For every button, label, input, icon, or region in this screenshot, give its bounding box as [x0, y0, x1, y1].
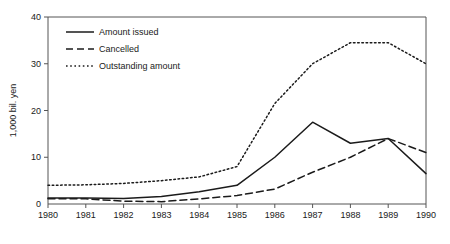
x-tick-label: 1990	[416, 210, 436, 220]
y-tick-label: 10	[31, 152, 41, 162]
series-line-dashed	[48, 139, 426, 202]
y-tick-label: 40	[31, 12, 41, 22]
legend-label: Cancelled	[99, 44, 139, 54]
x-tick-label: 1984	[189, 210, 209, 220]
x-tick-label: 1986	[265, 210, 285, 220]
series-line-solid	[48, 122, 426, 198]
x-tick-label: 1988	[340, 210, 360, 220]
y-tick-label: 30	[31, 59, 41, 69]
legend-label: Outstanding amount	[99, 61, 181, 71]
chart-legend: Amount issuedCancelledOutstanding amount	[66, 27, 181, 71]
y-tick-label: 0	[36, 199, 41, 209]
legend-label: Amount issued	[99, 27, 159, 37]
x-axis-ticks: 1980198119821983198419851986198719881989…	[38, 204, 436, 220]
x-tick-label: 1989	[378, 210, 398, 220]
y-axis-ticks: 010203040	[31, 12, 48, 209]
y-tick-label: 20	[31, 106, 41, 116]
x-tick-label: 1987	[303, 210, 323, 220]
x-tick-label: 1982	[114, 210, 134, 220]
chart-canvas: 010203040 198019811982198319841985198619…	[0, 0, 450, 244]
x-tick-label: 1981	[76, 210, 96, 220]
x-tick-label: 1985	[227, 210, 247, 220]
y-axis-label: 1,000 bil. yen	[8, 84, 18, 138]
line-chart: 010203040 198019811982198319841985198619…	[0, 0, 450, 244]
x-tick-label: 1983	[151, 210, 171, 220]
x-tick-label: 1980	[38, 210, 58, 220]
y-axis-title: 1,000 bil. yen	[8, 84, 18, 138]
